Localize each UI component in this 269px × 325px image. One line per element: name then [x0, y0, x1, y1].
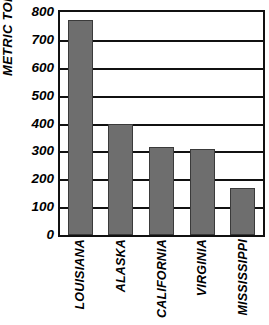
- x-axis-tick-label: ALASKA: [115, 239, 128, 292]
- y-axis-title: METRIC TONS: [0, 0, 18, 76]
- bar: [108, 124, 133, 235]
- x-axis-tick-label: MISSISSIPPI: [236, 239, 249, 316]
- y-axis-tick-label: 400: [18, 117, 54, 131]
- bar-chart: METRIC TONS 8007006005004003002001000 LO…: [0, 0, 269, 325]
- bar: [230, 188, 255, 235]
- plot-area: [58, 10, 265, 237]
- y-axis-tick-label: 100: [18, 200, 54, 214]
- x-axis-tick-label: VIRGINIA: [196, 239, 209, 296]
- y-axis-tick-label: 200: [18, 173, 54, 187]
- y-axis-tick-labels: 8007006005004003002001000: [18, 0, 54, 325]
- bar: [149, 147, 174, 235]
- y-axis-tick-label: 0: [18, 228, 54, 242]
- bar: [68, 20, 93, 235]
- bar: [190, 149, 215, 235]
- y-axis-tick-label: 700: [18, 33, 54, 47]
- bar-series: [60, 12, 263, 235]
- y-axis-tick-label: 600: [18, 61, 54, 75]
- x-axis-category-labels: LOUISIANAALASKACALIFORNIAVIRGINIAMISSISS…: [58, 239, 265, 325]
- x-axis-tick-label: CALIFORNIA: [155, 239, 168, 318]
- y-axis-tick-label: 500: [18, 89, 54, 103]
- x-axis-tick-label: LOUISIANA: [74, 239, 87, 310]
- y-axis-tick-label: 300: [18, 145, 54, 159]
- x-axis-label-slot: MISSISSIPPI: [213, 239, 269, 325]
- y-axis-tick-label: 800: [18, 5, 54, 19]
